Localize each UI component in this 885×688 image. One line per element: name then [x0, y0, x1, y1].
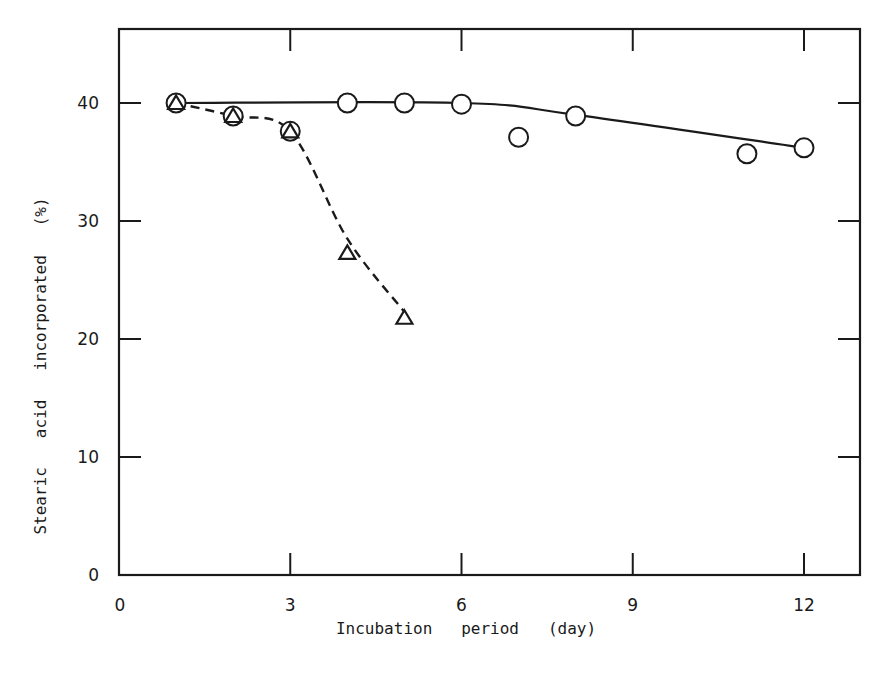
y-tick-labels: 010203040 [77, 93, 99, 585]
y-tick-label: 0 [88, 565, 99, 585]
x-tick-label: 3 [285, 595, 296, 615]
circle-marker [509, 128, 528, 147]
circle-marker [338, 94, 357, 113]
stearic-acid-chart: 036912 010203040 Incubation period (day)… [0, 0, 885, 688]
y-tick-label: 30 [77, 211, 99, 231]
series-lines [176, 102, 804, 312]
circle-marker [795, 138, 814, 157]
y-tick-label: 10 [77, 447, 99, 467]
circle-marker [452, 95, 471, 114]
x-tick-label: 9 [627, 595, 638, 615]
y-tick-label: 20 [77, 329, 99, 349]
x-tick-label: 0 [115, 595, 126, 615]
y-tick-label: 40 [77, 93, 99, 113]
triangle-marker [339, 245, 355, 258]
x-tick-labels: 036912 [115, 595, 815, 615]
circle-marker [395, 94, 414, 113]
x-tick-label: 12 [793, 595, 815, 615]
circle-series-curve [176, 102, 804, 148]
y-axis-title: Stearic acid incorporated (%) [31, 197, 50, 534]
triangle-marker [396, 310, 412, 324]
series-markers [167, 94, 814, 324]
x-axis-title: Incubation period (day) [336, 619, 596, 638]
x-tick-label: 6 [456, 595, 467, 615]
circle-marker [566, 106, 585, 125]
circle-marker [737, 144, 756, 163]
